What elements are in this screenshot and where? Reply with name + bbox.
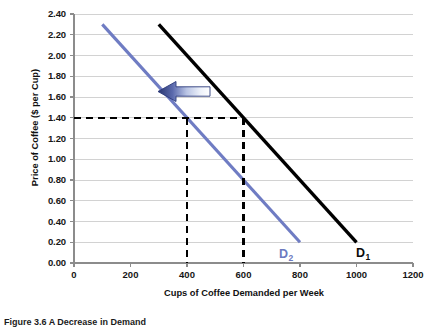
x-tick-label: 800 <box>280 270 320 280</box>
curve-label-d1-subscript: 1 <box>366 252 371 262</box>
curve-label-d1: D1 <box>356 247 370 261</box>
curve-label-d2: D2 <box>279 248 293 262</box>
curve-label-d2-text: D <box>279 247 288 261</box>
y-tick-label: 0.00 <box>32 258 66 268</box>
demand-curve-figure: 2.40 2.20 2.00 1.80 1.60 1.40 1.20 1.00 … <box>0 0 433 327</box>
x-tick-label: 0 <box>54 270 94 280</box>
x-axis-title: Cups of Coffee Demanded per Week <box>74 288 414 298</box>
x-tick-label: 1200 <box>393 270 433 280</box>
y-tick-label: 0.20 <box>32 237 66 247</box>
x-tick-label: 1000 <box>337 270 377 280</box>
x-tick-label: 600 <box>224 270 264 280</box>
y-axis-title: Price of Coffee ($ per Cup) <box>30 33 41 223</box>
curve-label-d1-text: D <box>356 246 365 260</box>
x-tick-label: 400 <box>167 270 207 280</box>
x-tick-label: 200 <box>111 270 151 280</box>
y-tick-label: 2.40 <box>32 9 66 19</box>
figure-caption: Figure 3.6 A Decrease in Demand <box>4 317 146 327</box>
curve-label-d2-subscript: 2 <box>289 253 294 263</box>
